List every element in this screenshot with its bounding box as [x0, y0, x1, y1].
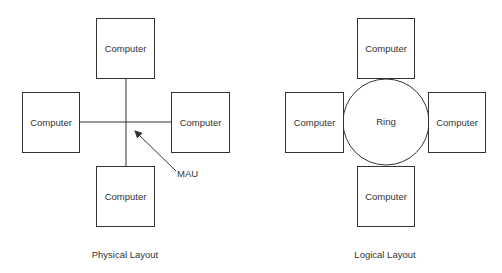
node-label: Computer	[180, 117, 222, 128]
node-label: Computer	[105, 43, 147, 54]
node-label: Computer	[365, 43, 407, 54]
logical-computer-top: Computer	[357, 18, 415, 79]
mau-arrow	[135, 131, 176, 171]
physical-caption: Physical Layout	[92, 249, 159, 260]
logical-caption: Logical Layout	[354, 249, 415, 260]
node-label: Computer	[105, 191, 147, 202]
physical-computer-right: Computer	[171, 92, 230, 153]
node-label: Computer	[294, 117, 336, 128]
node-label: Computer	[30, 117, 72, 128]
mau-label: MAU	[177, 168, 198, 179]
physical-computer-top: Computer	[96, 18, 155, 79]
node-label: Computer	[436, 117, 478, 128]
logical-computer-right: Computer	[428, 92, 486, 153]
physical-computer-left: Computer	[22, 92, 80, 153]
ring-label: Ring	[376, 116, 396, 127]
logical-computer-bottom: Computer	[357, 166, 415, 227]
physical-computer-bottom: Computer	[96, 166, 155, 227]
node-label: Computer	[365, 191, 407, 202]
logical-computer-left: Computer	[285, 92, 344, 153]
